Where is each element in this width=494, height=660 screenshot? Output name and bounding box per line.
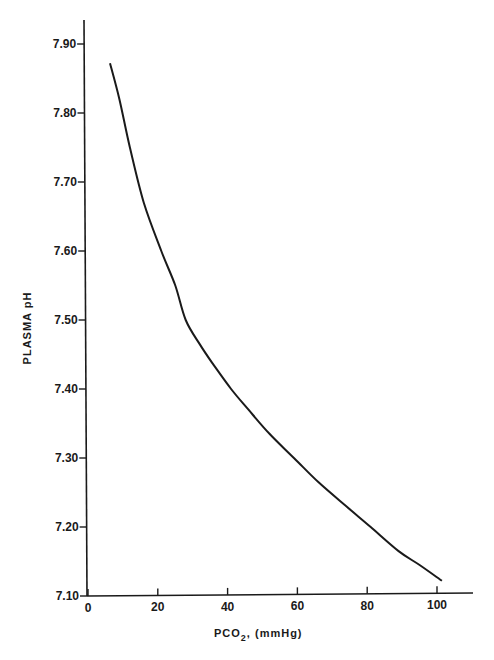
data-line xyxy=(110,63,442,581)
x-axis-label-rest: , (mmHg) xyxy=(247,627,303,639)
y-tick-label: 7.10 xyxy=(56,589,80,603)
x-axis-label-main: PCO xyxy=(214,627,241,639)
x-tick-label: 80 xyxy=(361,599,375,613)
x-axis-line xyxy=(87,593,473,596)
y-tick-label: 7.20 xyxy=(55,520,79,534)
y-tick-label: 7.90 xyxy=(53,37,77,51)
y-axis-line xyxy=(84,20,87,596)
y-tick-label: 7.50 xyxy=(54,313,78,327)
x-axis-label: PCO2, (mmHg) xyxy=(214,627,303,643)
x-tick-label: 40 xyxy=(221,600,235,614)
x-axis: 020406080100 xyxy=(85,586,473,615)
x-tick-label: 0 xyxy=(85,601,92,615)
y-tick-label: 7.80 xyxy=(53,106,77,120)
x-tick-label: 60 xyxy=(291,599,305,613)
y-tick-label: 7.60 xyxy=(54,244,78,258)
x-tick-label: 20 xyxy=(151,600,165,614)
y-axis: 7.107.207.307.407.507.607.707.807.90 xyxy=(53,20,87,603)
y-tick-label: 7.70 xyxy=(53,175,77,189)
y-axis-label: PLASMA pH xyxy=(21,292,33,365)
y-tick-label: 7.30 xyxy=(55,451,79,465)
y-tick-label: 7.40 xyxy=(55,382,79,396)
x-tick-label: 100 xyxy=(427,598,447,612)
chart: 7.107.207.307.407.507.607.707.807.90 020… xyxy=(0,0,494,660)
